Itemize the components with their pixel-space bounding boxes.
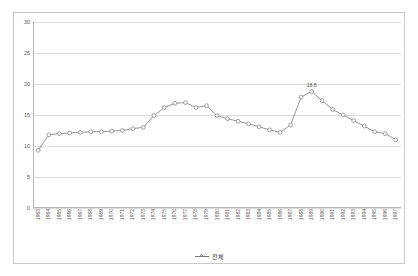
x-tick-label: 1970 [109,209,114,220]
x-tick-label: 1996 [383,209,388,220]
chart-screenshot: 051015202530 18.8 1963196419651966196719… [0,0,418,276]
data-point-marker [289,123,293,127]
x-tick-label: 1991 [330,209,335,220]
x-tick-label: 1972 [130,209,135,220]
y-axis-line [33,22,34,208]
data-point-marker [131,127,135,131]
data-point-marker [394,138,398,142]
chart-legend: 전체 [0,252,418,261]
x-tick-label: 1981 [225,209,230,220]
data-point-marker [257,125,261,129]
data-point-marker [341,113,345,117]
x-tick-label: 1980 [215,209,220,220]
data-point-marker [320,99,324,103]
x-tick-label: 1982 [236,209,241,220]
data-point-marker [226,117,230,121]
data-point-marker [57,132,61,136]
data-point-marker [99,130,103,134]
data-point-marker [278,130,282,134]
data-point-marker [47,133,51,137]
x-tick-label: 1964 [46,209,51,220]
data-point-marker [184,101,188,105]
peak-value-annotation: 18.8 [307,82,317,88]
data-point-marker [89,130,93,134]
data-point-marker [331,108,335,112]
x-tick-label: 1971 [120,209,125,220]
x-tick-label: 1992 [341,209,346,220]
data-point-marker [68,131,72,135]
data-point-marker [215,114,219,118]
data-point-marker [362,124,366,128]
data-point-marker [142,126,146,130]
data-point-marker [373,130,377,134]
x-tick-label: 1983 [246,209,251,220]
legend-label: 전체 [212,252,224,261]
x-tick-label: 1967 [78,209,83,220]
data-point-marker [205,104,209,108]
x-tick-label: 1995 [372,209,377,220]
data-point-marker [352,119,356,123]
plot-area: 18.8 [33,22,401,208]
data-point-marker [299,95,303,99]
x-tick-label: 1997 [393,209,398,220]
data-point-marker [268,128,272,132]
legend-marker-icon [195,256,209,257]
x-tick-label: 1975 [162,209,167,220]
x-tick-label: 1974 [151,209,156,220]
data-point-marker [236,119,240,123]
x-tick-label: 1969 [99,209,104,220]
data-point-marker [152,114,156,118]
x-tick-label: 1973 [141,209,146,220]
x-tick-label: 1966 [67,209,72,220]
x-tick-label: 1987 [288,209,293,220]
y-tick-label: 15 [24,112,30,118]
x-tick-label: 1963 [36,209,41,220]
x-tick-label: 1986 [278,209,283,220]
y-tick-label: 25 [24,50,30,56]
x-tick-label: 1979 [204,209,209,220]
data-point-marker [110,129,114,133]
x-tick-label: 1985 [267,209,272,220]
data-point-marker [36,148,40,152]
data-point-marker [78,130,82,134]
data-point-marker [173,101,177,105]
x-tick-label: 1965 [57,209,62,220]
y-tick-label: 30 [24,19,30,25]
y-tick-label: 5 [27,174,30,180]
series-line-total [33,22,401,208]
data-point-marker [194,106,198,110]
x-tick-label: 1989 [309,209,314,220]
x-tick-label: 1993 [351,209,356,220]
y-tick-label: 10 [24,143,30,149]
x-tick-label: 1977 [183,209,188,220]
x-tick-label: 1990 [320,209,325,220]
x-tick-label: 1976 [172,209,177,220]
x-tick-label: 1978 [193,209,198,220]
y-tick-label: 0 [27,205,30,211]
x-tick-label: 1988 [299,209,304,220]
x-tick-label: 1984 [257,209,262,220]
data-point-marker [247,122,251,126]
x-axis-labels: 1963196419651966196719681969197019711972… [33,209,401,251]
data-point-marker [120,129,124,133]
x-axis-line [33,207,401,208]
data-point-marker [163,106,167,110]
y-axis-labels: 051015202530 [13,22,30,208]
x-tick-label: 1968 [88,209,93,220]
data-point-marker [310,90,314,94]
data-point-marker [383,132,387,136]
x-tick-label: 1994 [362,209,367,220]
y-tick-label: 20 [24,81,30,87]
